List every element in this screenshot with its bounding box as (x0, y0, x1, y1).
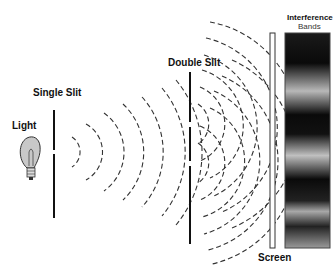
single-slit-label: Single Slit (33, 87, 82, 98)
light-bulb-icon (20, 137, 40, 180)
screen (270, 33, 275, 248)
screen-label: Screen (258, 252, 291, 263)
bands-label: Bands (298, 22, 321, 31)
interference-label: Interference (287, 13, 333, 22)
single-slit-wavefronts (72, 80, 202, 225)
light-label: Light (12, 120, 37, 131)
upper-slit-wavefronts (198, 22, 299, 228)
interference-bands (285, 33, 330, 248)
double-slit-diagram: Light Single Slit Double Slit (0, 0, 336, 270)
